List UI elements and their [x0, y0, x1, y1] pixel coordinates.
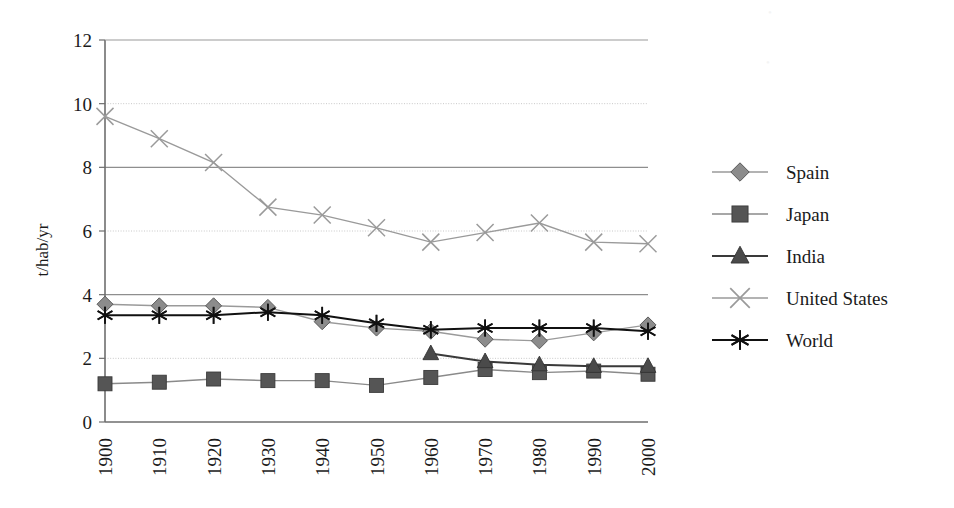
legend-label: Japan: [786, 204, 830, 225]
x-tick-label: 1970: [475, 438, 496, 476]
legend-label: World: [786, 330, 834, 351]
x-tick-label: 1990: [584, 438, 605, 476]
legend-label: Spain: [786, 162, 830, 183]
y-tick-label: 8: [83, 157, 93, 178]
y-tick-label: 6: [83, 221, 93, 242]
y-tick-label: 12: [73, 30, 92, 51]
y-tick-label: 10: [73, 94, 92, 115]
x-tick-label: 1910: [149, 438, 170, 476]
x-tick-label: 1920: [204, 438, 225, 476]
x-tick-label: 1930: [258, 438, 279, 476]
legend-label: United States: [786, 288, 888, 309]
x-tick-label: 2000: [638, 438, 659, 476]
y-axis-title: t/hab/yr: [33, 223, 52, 276]
y-tick-label: 0: [83, 412, 93, 433]
line-chart: 024681012 190019101920193019401950196019…: [0, 0, 954, 508]
y-tick-label: 4: [83, 285, 93, 306]
legend-marker-square-icon: [732, 206, 748, 222]
legend-label: India: [786, 246, 826, 267]
svg-text:t/hab/yr: t/hab/yr: [33, 223, 52, 276]
chart-figure: 024681012 190019101920193019401950196019…: [0, 0, 954, 508]
scan-artifact-upper: •: [768, 6, 773, 18]
x-tick-label: 1980: [529, 438, 550, 476]
scan-artifact-lower: •: [766, 56, 771, 68]
x-tick-label: 1960: [421, 438, 442, 476]
y-tick-label: 2: [83, 348, 93, 369]
x-tick-label: 1950: [367, 438, 388, 476]
x-tick-label: 1940: [312, 438, 333, 476]
x-tick-label: 1900: [95, 438, 116, 476]
